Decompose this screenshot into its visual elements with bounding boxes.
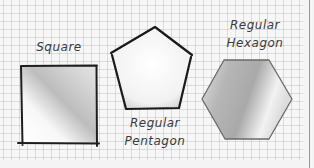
square-shape xyxy=(18,66,99,147)
hexagon-label: Regular Hexagon xyxy=(220,18,290,50)
pentagon-label-line2: Pentagon xyxy=(122,134,188,148)
hexagon-shape xyxy=(202,60,292,139)
pentagon-shape xyxy=(111,27,192,109)
pentagon-label: Regular Pentagon xyxy=(122,116,188,148)
hexagon-label-line1: Regular xyxy=(220,18,290,32)
square-label: Square xyxy=(34,40,84,54)
square-label-text: Square xyxy=(36,40,82,54)
pentagon-label-line1: Regular xyxy=(122,116,188,130)
hexagon-label-line2: Hexagon xyxy=(220,36,290,50)
